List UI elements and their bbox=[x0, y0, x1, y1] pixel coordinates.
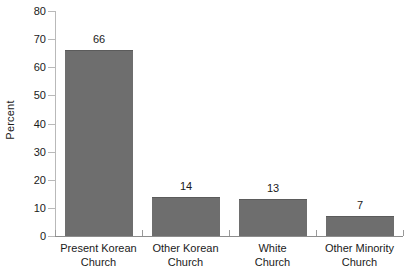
y-axis-tick bbox=[48, 208, 55, 209]
x-axis-category-label-line: Church bbox=[229, 255, 316, 269]
bar-value-label: 7 bbox=[326, 200, 394, 211]
y-axis-tick-label: 60 bbox=[2, 62, 46, 73]
x-axis-category-label-line: Present Korean bbox=[55, 241, 142, 255]
bar bbox=[152, 197, 220, 236]
x-axis-category-label: Other KoreanChurch bbox=[142, 241, 229, 269]
bar-value-label: 14 bbox=[152, 181, 220, 192]
y-axis-tick bbox=[48, 67, 55, 68]
x-axis-category-label-line: White bbox=[229, 241, 316, 255]
x-axis-category-label-line: Church bbox=[316, 255, 403, 269]
y-axis-tick bbox=[48, 152, 55, 153]
y-axis-tick bbox=[48, 39, 55, 40]
y-axis-tick-label: 50 bbox=[2, 90, 46, 101]
y-axis-tick bbox=[48, 124, 55, 125]
y-axis-tick-label: 20 bbox=[2, 175, 46, 186]
bar-value-label: 66 bbox=[65, 34, 133, 45]
y-axis-tick bbox=[48, 11, 55, 12]
x-axis-category-label-line: Church bbox=[142, 255, 229, 269]
bar-value-label: 13 bbox=[239, 183, 307, 194]
x-axis-category-label: WhiteChurch bbox=[229, 241, 316, 269]
x-axis-category-label-line: Church bbox=[55, 255, 142, 269]
y-axis-tick bbox=[48, 180, 55, 181]
y-axis-tick-label: 0 bbox=[2, 231, 46, 242]
bar bbox=[239, 199, 307, 236]
x-axis-tick bbox=[403, 230, 404, 236]
y-axis-tick-label: 40 bbox=[2, 119, 46, 130]
y-axis-tick-label: 80 bbox=[2, 6, 46, 17]
x-axis-line bbox=[55, 236, 403, 237]
x-axis-category-label: Present KoreanChurch bbox=[55, 241, 142, 269]
y-axis-tick-labels: 01020304050607080 bbox=[0, 0, 46, 277]
x-axis-category-label-line: Other Minority bbox=[316, 241, 403, 255]
y-axis-tick-label: 30 bbox=[2, 147, 46, 158]
y-axis-tick bbox=[48, 95, 55, 96]
y-axis-tick-label: 70 bbox=[2, 34, 46, 45]
bar bbox=[326, 216, 394, 236]
x-axis-category-label-line: Other Korean bbox=[142, 241, 229, 255]
bar-chart: Percent 01020304050607080 6614137 Presen… bbox=[0, 0, 407, 277]
x-axis-category-label: Other MinorityChurch bbox=[316, 241, 403, 269]
y-axis-tick bbox=[48, 236, 55, 237]
bar bbox=[65, 50, 133, 236]
y-axis-tick-label: 10 bbox=[2, 203, 46, 214]
